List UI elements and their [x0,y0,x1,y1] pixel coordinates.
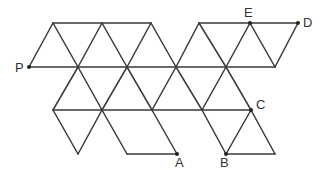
grid-segment [202,110,226,154]
grid-segment [152,67,176,110]
grid-segment [53,110,78,154]
grid-segment [127,23,151,67]
grid-segment [78,23,102,67]
grid-segment [151,23,176,67]
point-labels: PEDCAB [15,5,312,170]
grid-segment [176,23,199,67]
grid-segment [78,110,102,154]
triangle-grid-diagram: PEDCAB [0,0,327,176]
point-p-dot [27,65,31,69]
grid-segment [176,67,202,110]
grid-segment [53,23,78,67]
point-label-e: E [244,5,253,20]
grid-segment [127,67,152,110]
point-label-a: A [175,155,184,170]
point-e-dot [248,21,252,25]
grid-segment [251,110,275,154]
point-label-d: D [303,15,312,30]
grid-segment [78,67,102,110]
point-d-dot [296,21,300,25]
grid-segment [102,110,127,154]
grid-segment [202,67,226,110]
grid-segment [53,67,78,110]
grid-lines [29,23,298,154]
point-label-b: B [220,155,229,170]
grid-segment [226,110,251,154]
point-label-p: P [15,60,24,75]
point-c-dot [249,108,253,112]
grid-segment [102,67,127,110]
grid-segment [102,23,127,67]
grid-segment [152,110,177,154]
grid-segment [29,23,53,67]
grid-segment [226,23,250,67]
grid-segment [250,23,275,67]
grid-segment [226,67,251,110]
grid-segment [199,23,226,67]
grid-segment [275,23,298,67]
point-label-c: C [256,97,265,112]
